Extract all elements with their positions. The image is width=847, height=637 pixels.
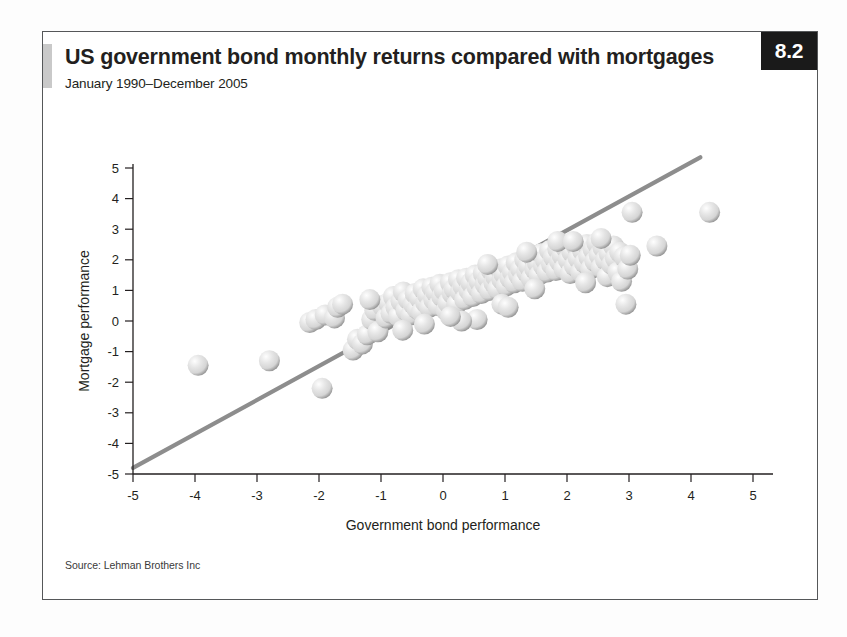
data-point bbox=[392, 320, 413, 341]
data-point bbox=[359, 289, 380, 310]
page-background: US government bond monthly returns compa… bbox=[0, 0, 847, 637]
x-tick-label: 3 bbox=[625, 488, 632, 503]
x-tick-label: 4 bbox=[687, 488, 694, 503]
data-point bbox=[440, 306, 461, 327]
x-tick-label: -2 bbox=[313, 488, 325, 503]
data-point bbox=[477, 254, 498, 275]
data-point bbox=[312, 378, 333, 399]
y-tick-label: 3 bbox=[112, 222, 119, 237]
x-tick-label: 2 bbox=[563, 488, 570, 503]
x-tick-label: -5 bbox=[127, 488, 139, 503]
y-tick-label: 4 bbox=[112, 191, 119, 206]
y-tick-label: -1 bbox=[107, 344, 119, 359]
figure-frame: US government bond monthly returns compa… bbox=[42, 31, 818, 600]
x-axis-title: Government bond performance bbox=[346, 517, 541, 533]
data-point bbox=[575, 272, 596, 293]
x-tick-label: 0 bbox=[439, 488, 446, 503]
data-point bbox=[188, 355, 209, 376]
y-tick-label: 2 bbox=[112, 252, 119, 267]
data-point bbox=[699, 202, 720, 223]
source-note: Source: Lehman Brothers Inc bbox=[65, 559, 200, 571]
data-point bbox=[332, 294, 353, 315]
data-point bbox=[516, 242, 537, 263]
data-points bbox=[188, 202, 721, 399]
x-tick-label: 1 bbox=[501, 488, 508, 503]
x-tick-label: -3 bbox=[251, 488, 263, 503]
x-tick-label: -1 bbox=[375, 488, 387, 503]
y-tick-label: -5 bbox=[107, 467, 119, 482]
y-tick-label: 0 bbox=[112, 314, 119, 329]
x-tick-label: 5 bbox=[749, 488, 756, 503]
y-tick-label: -2 bbox=[107, 375, 119, 390]
y-tick-label: 1 bbox=[112, 283, 119, 298]
y-tick-label: 5 bbox=[112, 161, 119, 176]
data-point bbox=[591, 228, 612, 249]
data-point bbox=[259, 350, 280, 371]
data-point bbox=[646, 236, 667, 257]
scatter-chart: -5-4-3-2-1012345-5-4-3-2-1012345Governme… bbox=[43, 32, 819, 601]
data-point bbox=[498, 297, 519, 318]
data-point bbox=[615, 294, 636, 315]
chart-plot-area: -5-4-3-2-1012345-5-4-3-2-1012345Governme… bbox=[43, 32, 819, 601]
data-point bbox=[524, 278, 545, 299]
data-point bbox=[414, 314, 435, 335]
y-tick-label: -3 bbox=[107, 405, 119, 420]
x-tick-label: -4 bbox=[189, 488, 201, 503]
y-axis-title: Mortgage performance bbox=[76, 250, 92, 392]
data-point bbox=[620, 245, 641, 266]
data-point bbox=[622, 202, 643, 223]
data-point bbox=[563, 231, 584, 252]
y-tick-label: -4 bbox=[107, 436, 119, 451]
